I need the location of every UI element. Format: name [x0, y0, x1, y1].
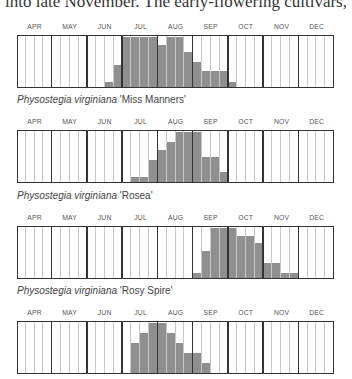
- week-divider: [183, 322, 184, 373]
- month-label-aug: AUG: [161, 308, 191, 317]
- week-divider: [139, 131, 140, 182]
- month-divider: [192, 36, 194, 87]
- week-divider: [183, 227, 184, 278]
- week-divider: [34, 227, 35, 278]
- week-divider: [307, 227, 308, 278]
- week-divider: [289, 131, 290, 182]
- week-divider: [324, 131, 325, 182]
- month-divider: [121, 36, 123, 87]
- month-label-sep: SEP: [196, 213, 226, 222]
- week-divider: [324, 322, 325, 373]
- week-divider: [307, 36, 308, 87]
- week-divider: [139, 36, 140, 87]
- week-divider: [315, 227, 316, 278]
- week-divider: [166, 322, 167, 373]
- week-divider: [166, 131, 167, 182]
- week-divider: [254, 322, 255, 373]
- week-divider: [210, 36, 211, 87]
- week-divider: [280, 322, 281, 373]
- week-divider: [175, 131, 176, 182]
- week-divider: [148, 322, 149, 373]
- week-divider: [219, 131, 220, 182]
- week-divider: [254, 131, 255, 182]
- month-label-sep: SEP: [196, 308, 226, 317]
- week-divider: [245, 322, 246, 373]
- month-label-sep: SEP: [196, 117, 226, 126]
- week-divider: [130, 131, 131, 182]
- week-divider: [271, 131, 272, 182]
- month-label-apr: APR: [20, 117, 50, 126]
- month-label-jun: JUN: [90, 213, 120, 222]
- week-divider: [219, 322, 220, 373]
- month-divider: [192, 322, 194, 373]
- week-divider: [148, 131, 149, 182]
- week-divider: [25, 227, 26, 278]
- week-divider: [42, 227, 43, 278]
- week-divider: [60, 322, 61, 373]
- month-divider: [262, 36, 264, 87]
- week-divider: [271, 36, 272, 87]
- month-label-jul: JUL: [125, 213, 155, 222]
- week-divider: [60, 36, 61, 87]
- week-divider: [307, 131, 308, 182]
- week-divider: [201, 131, 202, 182]
- week-divider: [34, 131, 35, 182]
- week-divider: [130, 322, 131, 373]
- week-divider: [130, 36, 131, 87]
- week-divider: [113, 131, 114, 182]
- month-label-jun: JUN: [90, 117, 120, 126]
- month-label-dec: DEC: [301, 117, 331, 126]
- month-divider: [227, 322, 229, 373]
- intro-text: into late November. The early-flowering …: [0, 0, 352, 12]
- month-label-aug: AUG: [161, 213, 191, 222]
- month-divider: [227, 131, 229, 182]
- week-divider: [324, 36, 325, 87]
- month-label-nov: NOV: [266, 213, 296, 222]
- week-divider: [25, 36, 26, 87]
- week-divider: [130, 227, 131, 278]
- month-label-may: MAY: [55, 213, 85, 222]
- chart-box: [17, 35, 334, 88]
- week-divider: [210, 227, 211, 278]
- month-divider: [51, 36, 53, 87]
- week-divider: [201, 227, 202, 278]
- month-divider: [86, 227, 88, 278]
- month-label-jun: JUN: [90, 308, 120, 317]
- month-label-apr: APR: [20, 213, 50, 222]
- week-divider: [78, 227, 79, 278]
- week-divider: [219, 36, 220, 87]
- week-divider: [254, 227, 255, 278]
- month-label-jun: JUN: [90, 22, 120, 31]
- month-divider: [262, 227, 264, 278]
- month-divider: [157, 227, 159, 278]
- week-divider: [104, 227, 105, 278]
- bloom-chart-4: APRMAYJUNJULAUGSEPOCTNOVDEC: [17, 308, 334, 374]
- week-divider: [280, 227, 281, 278]
- week-divider: [236, 131, 237, 182]
- chart-box: [17, 226, 334, 279]
- month-divider: [298, 322, 300, 373]
- month-divider: [298, 36, 300, 87]
- week-divider: [201, 36, 202, 87]
- week-divider: [254, 36, 255, 87]
- month-label-oct: OCT: [231, 117, 261, 126]
- caption-species: Physostegia virginiana: [17, 285, 117, 296]
- week-divider: [104, 36, 105, 87]
- month-divider: [121, 227, 123, 278]
- week-divider: [69, 227, 70, 278]
- week-divider: [289, 227, 290, 278]
- month-labels: APRMAYJUNJULAUGSEPOCTNOVDEC: [17, 308, 334, 317]
- month-divider: [51, 227, 53, 278]
- month-label-dec: DEC: [301, 22, 331, 31]
- week-divider: [139, 322, 140, 373]
- week-divider: [113, 227, 114, 278]
- month-label-sep: SEP: [196, 22, 226, 31]
- week-divider: [42, 131, 43, 182]
- week-divider: [139, 227, 140, 278]
- month-label-nov: NOV: [266, 117, 296, 126]
- week-divider: [307, 322, 308, 373]
- caption-rosy-spire: Physostegia virginiana 'Rosy Spire': [17, 285, 173, 296]
- month-divider: [86, 322, 88, 373]
- week-divider: [95, 322, 96, 373]
- month-label-jul: JUL: [125, 117, 155, 126]
